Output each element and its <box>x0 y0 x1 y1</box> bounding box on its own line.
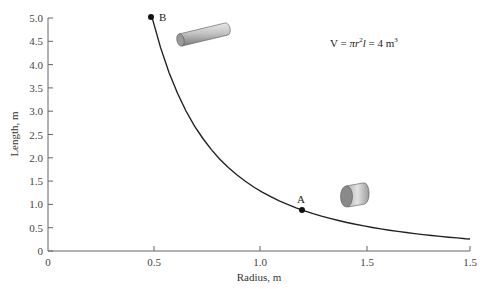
y-tick-label: 1.0 <box>29 198 43 210</box>
axes <box>48 18 470 251</box>
y-tick-label: 5.0 <box>29 12 43 24</box>
point-a: A <box>297 193 305 213</box>
y-tick-label: 3.0 <box>29 105 43 117</box>
y-tick-label: 0 <box>38 245 44 257</box>
curve-line <box>152 18 470 239</box>
point-a-label: A <box>297 193 305 205</box>
y-ticks <box>48 18 53 251</box>
y-tick-label: 4.0 <box>29 59 43 71</box>
x-tick-labels: 0 0.5 1.0 1.5 1.5 <box>45 256 477 268</box>
point-b: B <box>148 11 166 23</box>
x-tick-label: 0 <box>45 256 51 268</box>
long-cylinder-icon <box>176 23 231 47</box>
chart: 0 0.5 1.0 1.5 2.0 2.5 3.0 3.5 4.0 4.5 5.… <box>0 0 491 289</box>
volume-formula: V = πr2l = 4 m3 <box>330 36 398 49</box>
x-axis-title: Radius, m <box>237 271 282 283</box>
y-tick-label: 2.0 <box>29 152 43 164</box>
point-b-label: B <box>159 11 166 23</box>
y-tick-label: 2.5 <box>29 129 43 141</box>
short-cylinder-icon <box>341 183 370 207</box>
x-tick-label: 1.5 <box>463 256 477 268</box>
x-tick-label: 1.0 <box>253 256 267 268</box>
y-tick-labels: 0 0.5 1.0 1.5 2.0 2.5 3.0 3.5 4.0 4.5 5.… <box>29 12 43 257</box>
y-tick-label: 0.5 <box>29 222 43 234</box>
x-tick-label: 0.5 <box>147 256 161 268</box>
x-tick-label: 1.5 <box>360 256 374 268</box>
y-tick-label: 4.5 <box>29 35 43 47</box>
y-tick-label: 3.5 <box>29 82 43 94</box>
y-tick-label: 1.5 <box>29 175 43 187</box>
x-ticks <box>154 246 470 251</box>
y-axis-title: Length, m <box>8 111 20 157</box>
